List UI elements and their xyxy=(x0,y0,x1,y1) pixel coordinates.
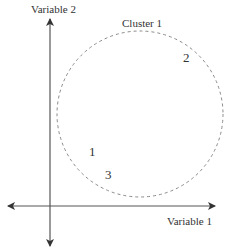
point-label-2: 2 xyxy=(183,50,190,65)
cluster-label: Cluster 1 xyxy=(122,17,162,29)
y-axis: Variable 2 xyxy=(31,3,76,246)
y-axis-label: Variable 2 xyxy=(31,3,76,15)
cluster-1: Cluster 1 xyxy=(57,17,223,197)
x-axis-label: Variable 1 xyxy=(167,215,212,227)
cluster-boundary xyxy=(57,31,223,197)
data-points: 1 2 3 xyxy=(89,50,190,182)
x-axis: Variable 1 xyxy=(8,206,215,227)
diagram-canvas: Cluster 1 Variable 1 Variable 2 1 2 3 xyxy=(0,0,232,252)
point-label-1: 1 xyxy=(89,144,96,159)
point-label-3: 3 xyxy=(105,167,112,182)
